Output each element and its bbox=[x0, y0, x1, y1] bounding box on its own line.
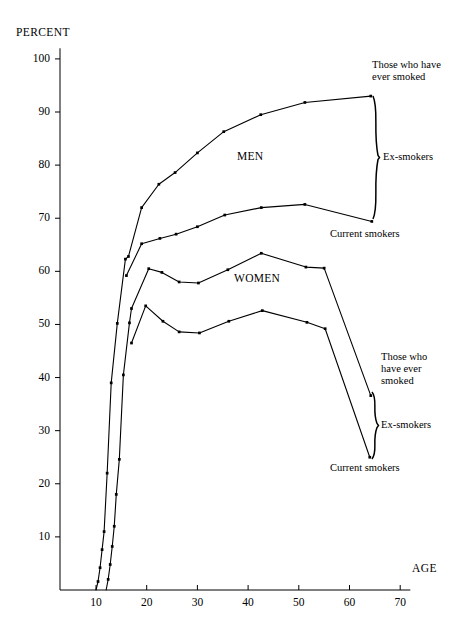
series-3-point-2 bbox=[162, 320, 165, 323]
series-1-point-4 bbox=[196, 225, 199, 228]
x-tick-label-20: 20 bbox=[132, 596, 162, 608]
brace-women bbox=[372, 392, 379, 459]
y-tick-label-30: 30 bbox=[20, 424, 50, 436]
annotation-men-ex-smokers: Ex-smokers bbox=[383, 151, 433, 164]
x-axis-title: AGE bbox=[412, 562, 437, 574]
series-1-point-3 bbox=[175, 233, 178, 236]
series-3-point-8 bbox=[324, 327, 327, 330]
axes bbox=[55, 48, 410, 590]
series-3-point-1 bbox=[144, 305, 147, 308]
series-0-point-6 bbox=[110, 382, 113, 385]
series-1-point-5 bbox=[223, 214, 226, 217]
series-1-point-2 bbox=[159, 237, 162, 240]
series-2-point-5 bbox=[115, 493, 118, 496]
annotation-women-current-smokers: Current smokers bbox=[330, 462, 400, 475]
y-tick-label-70: 70 bbox=[20, 211, 50, 223]
series-2-point-15 bbox=[260, 252, 263, 255]
series-2-point-2 bbox=[109, 563, 112, 566]
annotation-men-ever-smoked-line1: Those who have bbox=[372, 59, 441, 72]
annotation-women-ex-smokers: Ex-smokers bbox=[381, 419, 431, 432]
series-1-point-0 bbox=[125, 274, 128, 277]
series-0-point-8 bbox=[124, 258, 127, 261]
series-2-point-10 bbox=[147, 267, 150, 270]
y-tick-label-80: 80 bbox=[20, 158, 50, 170]
series-2-point-7 bbox=[122, 374, 125, 377]
series-3-point-7 bbox=[306, 321, 309, 324]
x-tick-label-60: 60 bbox=[335, 596, 365, 608]
series-2-point-6 bbox=[118, 458, 121, 461]
y-axis-title: PERCENT bbox=[16, 26, 70, 38]
series-0-point-2 bbox=[99, 566, 102, 569]
chart-plot bbox=[0, 0, 465, 640]
series-2-point-8 bbox=[128, 322, 131, 325]
series-0-point-13 bbox=[196, 152, 199, 155]
series-1-point-8 bbox=[370, 220, 373, 223]
series-0-point-5 bbox=[106, 472, 109, 475]
series-0-point-15 bbox=[259, 113, 262, 116]
series-0-point-9 bbox=[127, 255, 130, 258]
series-2-point-12 bbox=[178, 281, 181, 284]
y-tick-label-10: 10 bbox=[20, 530, 50, 542]
y-tick-label-90: 90 bbox=[20, 105, 50, 117]
series-3-point-3 bbox=[178, 331, 181, 334]
series-2-point-1 bbox=[107, 578, 110, 581]
series-3-point-0 bbox=[130, 342, 133, 345]
series-2-point-13 bbox=[197, 282, 200, 285]
group-label-women: WOMEN bbox=[234, 272, 280, 284]
series-0-point-11 bbox=[158, 183, 161, 186]
series-0-point-12 bbox=[174, 171, 177, 174]
brace-markers bbox=[372, 96, 380, 459]
series-2-point-9 bbox=[130, 307, 133, 310]
annotation-women-ever-smoked-line2: have ever bbox=[381, 363, 422, 376]
annotation-women-ever-smoked-line1: Those who bbox=[381, 351, 427, 364]
x-tick-label-50: 50 bbox=[284, 596, 314, 608]
y-tick-label-40: 40 bbox=[20, 371, 50, 383]
series-3-point-9 bbox=[368, 456, 371, 459]
series-2-point-11 bbox=[161, 271, 164, 274]
series-2-point-14 bbox=[226, 268, 229, 271]
series-2-point-17 bbox=[323, 267, 326, 270]
y-tick-label-100: 100 bbox=[20, 52, 50, 64]
y-tick-label-20: 20 bbox=[20, 477, 50, 489]
series-3-point-6 bbox=[261, 309, 264, 312]
series-2-point-4 bbox=[113, 525, 116, 528]
y-tick-label-50: 50 bbox=[20, 317, 50, 329]
series-0-point-3 bbox=[101, 548, 104, 551]
series-0-point-1 bbox=[97, 580, 100, 583]
group-label-men: MEN bbox=[237, 150, 263, 162]
series-line-2 bbox=[106, 253, 371, 590]
annotation-men-current-smokers: Current smokers bbox=[330, 228, 400, 241]
series-1-point-7 bbox=[304, 203, 307, 206]
series-2-point-16 bbox=[305, 266, 308, 269]
series-1-point-6 bbox=[260, 206, 263, 209]
series-line-3 bbox=[131, 306, 369, 457]
series-0-point-10 bbox=[140, 206, 143, 209]
series-0-point-4 bbox=[103, 530, 106, 533]
series-0-point-16 bbox=[304, 101, 307, 104]
y-tick-label-60: 60 bbox=[20, 264, 50, 276]
x-tick-label-70: 70 bbox=[385, 596, 415, 608]
x-tick-label-30: 30 bbox=[182, 596, 212, 608]
x-tick-label-10: 10 bbox=[81, 596, 111, 608]
figure-container: PERCENT AGE 102030405060708090100 102030… bbox=[0, 0, 465, 640]
series-1-point-1 bbox=[140, 242, 143, 245]
series-2-point-18 bbox=[369, 394, 372, 397]
series-0-point-7 bbox=[116, 322, 119, 325]
brace-men bbox=[373, 96, 380, 219]
series-3-point-5 bbox=[227, 320, 230, 323]
series-2-point-3 bbox=[111, 545, 114, 548]
annotation-men-ever-smoked-line2: ever smoked bbox=[372, 71, 425, 84]
x-tick-label-40: 40 bbox=[233, 596, 263, 608]
series-3-point-4 bbox=[198, 332, 201, 335]
data-series bbox=[96, 95, 373, 590]
annotation-women-ever-smoked-line3: smoked bbox=[381, 375, 414, 388]
series-0-point-14 bbox=[222, 130, 225, 133]
series-0-point-17 bbox=[369, 95, 372, 98]
